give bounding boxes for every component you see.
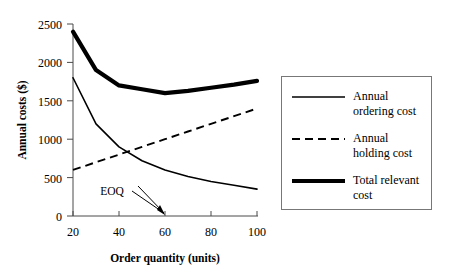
eoq-annotation-label: EOQ — [100, 185, 124, 197]
eoq-annotation: EOQ — [100, 185, 165, 215]
x-tick-label-60: 60 — [159, 225, 171, 239]
legend-label-annual-ordering-cost-line2: ordering cost — [353, 104, 417, 118]
x-tick-label-80: 80 — [205, 225, 217, 239]
y-tick-label-2000: 2000 — [38, 56, 62, 70]
legend-label-total-relevant-cost-line2: cost — [353, 188, 373, 202]
legend-label-annual-holding-cost-line1: Annual — [353, 131, 389, 145]
x-tick-label-40: 40 — [113, 225, 125, 239]
x-tick-label-100: 100 — [248, 225, 266, 239]
chart-canvas: 2500 2000 1500 1000 500 0 20 40 60 80 10… — [0, 0, 450, 277]
y-axis-ticks — [67, 24, 73, 216]
y-tick-label-2500: 2500 — [38, 18, 62, 32]
y-tick-label-1500: 1500 — [38, 95, 62, 109]
legend-label-total-relevant-cost-line1: Total relevant — [353, 173, 420, 187]
chart-legend: Annual ordering cost Annual holding cost… — [282, 77, 432, 210]
series-line-total-relevant-cost — [73, 32, 257, 93]
x-axis-ticks — [73, 211, 257, 216]
y-axis-title: Annual costs ($) — [16, 80, 29, 159]
y-tick-label-1000: 1000 — [38, 133, 62, 147]
series-line-annual-holding-cost — [73, 108, 257, 169]
x-axis-title: Order quantity (units) — [110, 252, 220, 265]
legend-label-annual-holding-cost-line2: holding cost — [353, 146, 413, 160]
eoq-cost-chart-figure: 2500 2000 1500 1000 500 0 20 40 60 80 10… — [0, 0, 450, 277]
y-tick-label-500: 500 — [44, 172, 62, 186]
eoq-arrow-shaft-2 — [138, 186, 164, 213]
legend-label-annual-ordering-cost-line1: Annual — [353, 89, 389, 103]
x-tick-label-20: 20 — [67, 225, 79, 239]
y-tick-label-0: 0 — [56, 210, 62, 224]
